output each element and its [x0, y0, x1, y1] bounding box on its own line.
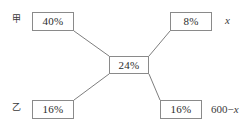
variable-label-upper-right: x: [225, 15, 230, 26]
variable-label-lower-right: 600−x: [211, 104, 239, 115]
node-box-bottom-right: 16%: [160, 100, 202, 119]
connector-top-right-to-center: [149, 31, 170, 56]
row-label-lower: 乙: [12, 103, 21, 112]
node-box-top-right: 8%: [170, 12, 212, 31]
row-label-upper: 甲: [12, 15, 21, 24]
node-box-bottom-left: 16%: [32, 100, 74, 119]
connector-bottom-right-to-center: [149, 74, 160, 100]
node-box-top-left: 40%: [32, 12, 74, 31]
variable-label-lower-right-var: x: [234, 103, 239, 115]
alligation-diagram: 甲 乙 40% 8% 24% 16% 16% x 600−x: [0, 0, 250, 129]
node-box-center: 24%: [109, 56, 149, 74]
connector-bottom-left-to-center: [74, 74, 109, 100]
variable-label-lower-right-prefix: 600−: [211, 103, 234, 115]
connector-top-left-to-center: [74, 31, 109, 56]
